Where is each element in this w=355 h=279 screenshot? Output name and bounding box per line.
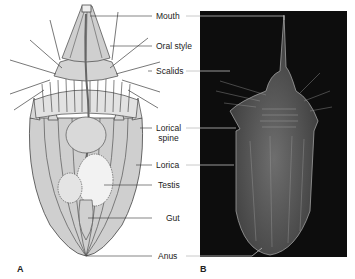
panel-letter-b: B — [200, 264, 207, 274]
label-lorical-line2: spine — [156, 133, 181, 143]
label-mouth: Mouth — [156, 11, 180, 21]
label-lorical-line1: Lorical — [156, 123, 181, 133]
label-oral-style: Oral style — [156, 41, 192, 51]
label-scalids: Scalids — [156, 66, 183, 76]
label-lorica: Lorica — [156, 160, 179, 170]
label-anus: Anus — [158, 251, 177, 261]
label-gut: Gut — [166, 213, 180, 223]
label-lorical-spine: Lorical spine — [156, 123, 181, 143]
panel-letter-a: A — [17, 264, 24, 274]
label-testis: Testis — [158, 180, 180, 190]
